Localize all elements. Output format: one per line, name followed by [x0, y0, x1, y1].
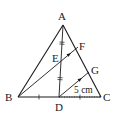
triangle-figure: A B C D E F G 5 cm [0, 0, 119, 119]
geometry-diagram: A B C D E F G 5 cm [0, 0, 119, 119]
label-b: B [5, 91, 12, 103]
label-d: D [55, 101, 63, 113]
measurement-label: 5 cm [74, 85, 93, 95]
label-e: E [52, 52, 59, 64]
label-f: F [79, 40, 85, 52]
label-a: A [58, 10, 66, 22]
label-c: C [103, 91, 110, 103]
label-g: G [91, 64, 99, 76]
